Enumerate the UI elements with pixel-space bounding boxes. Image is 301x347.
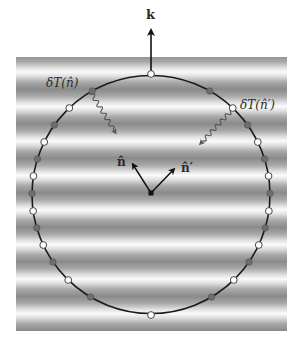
open-node-right-12	[230, 277, 237, 284]
temperature-label-n: δT(n̂)	[46, 77, 78, 89]
open-node-left-4	[41, 139, 48, 146]
open-node-right-4	[254, 139, 261, 146]
filled-node-left-3	[51, 122, 57, 128]
filled-node-right-5	[261, 156, 267, 162]
open-node-left-12	[65, 277, 72, 284]
temperature-label-n-prime: δT(n̂′)	[240, 99, 275, 111]
wave-vector-label: k	[146, 8, 155, 21]
filled-node-right-9	[262, 225, 268, 231]
open-node-left-10	[40, 242, 47, 249]
open-node-left-0	[148, 71, 155, 78]
filled-node-right-3	[244, 122, 250, 128]
open-node-left-2	[66, 105, 73, 112]
filled-node-right-1	[207, 88, 213, 94]
filled-node-left-1	[89, 88, 95, 94]
filled-node-right-13	[208, 294, 214, 300]
filled-node-left-9	[34, 225, 40, 231]
filled-node-left-11	[50, 259, 56, 265]
filled-node-left-5	[34, 156, 40, 162]
open-node-right-2	[229, 105, 236, 112]
direction-label-n-prime: n̂′	[181, 162, 193, 174]
observer-center-point	[149, 191, 154, 196]
open-node-right-10	[255, 242, 262, 249]
open-node-left-14	[148, 312, 155, 319]
filled-node-left-7	[29, 190, 35, 196]
open-node-right-6	[265, 173, 272, 180]
direction-label-n: n̂	[117, 156, 126, 168]
cmb-last-scattering-diagram	[0, 0, 301, 347]
open-node-left-8	[30, 208, 37, 215]
filled-node-right-7	[267, 190, 273, 196]
open-node-right-8	[265, 208, 272, 215]
filled-node-left-13	[87, 294, 93, 300]
open-node-left-6	[30, 173, 37, 180]
filled-node-right-11	[246, 259, 252, 265]
